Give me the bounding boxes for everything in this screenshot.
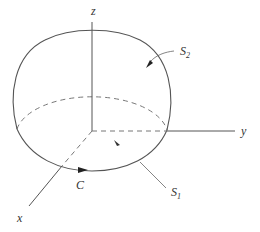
x-axis bbox=[29, 166, 62, 206]
s2-label-sub: 2 bbox=[186, 51, 190, 60]
curve-direction-arrow-icon bbox=[78, 167, 88, 173]
curve-c-front bbox=[17, 129, 167, 171]
y-axis-label: y bbox=[240, 124, 247, 138]
curve-c-label: C bbox=[76, 178, 85, 192]
s1-label: S1 bbox=[171, 185, 181, 201]
s1-label-sub: 1 bbox=[177, 192, 181, 201]
x-axis-dashed bbox=[62, 131, 92, 166]
s2-leader-line bbox=[150, 51, 174, 62]
s1-leader-line bbox=[140, 162, 166, 188]
z-axis-label: z bbox=[90, 4, 96, 18]
hemisphere-diagram: z y x C S2 S1 bbox=[0, 0, 260, 232]
x-axis-label: x bbox=[16, 211, 23, 225]
s2-label: S2 bbox=[180, 44, 190, 60]
s1-normal-arrow-icon bbox=[114, 140, 120, 146]
s2-arrow-icon bbox=[146, 60, 153, 68]
